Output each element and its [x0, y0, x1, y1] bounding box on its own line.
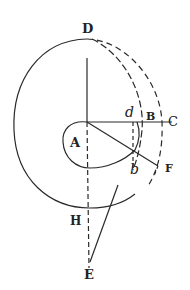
label-b: b: [130, 162, 139, 176]
label-F: F: [165, 163, 173, 174]
line-E: [90, 185, 118, 262]
label-A: A: [70, 136, 80, 149]
label-C: C: [168, 115, 178, 128]
vertical-axis-lower: [87, 122, 89, 268]
label-B: B: [146, 111, 155, 122]
label-D: D: [82, 22, 93, 35]
label-H: H: [70, 215, 81, 227]
geometry-figure: [0, 0, 190, 290]
label-d: d: [125, 105, 134, 119]
label-E: E: [84, 268, 94, 281]
